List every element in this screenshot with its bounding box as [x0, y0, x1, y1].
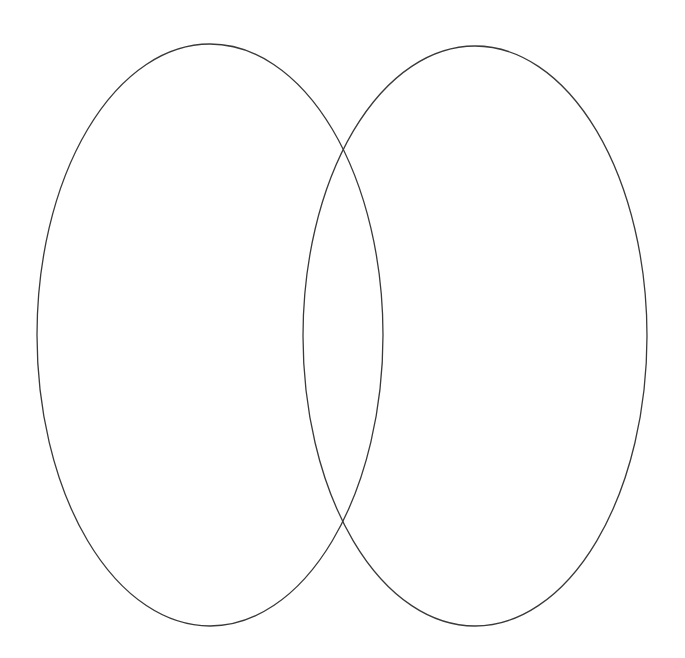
venn-diagram: [0, 0, 685, 658]
right-set-ellipse: [303, 46, 647, 626]
left-set-ellipse: [37, 44, 383, 626]
venn-diagram-canvas: [0, 0, 685, 658]
